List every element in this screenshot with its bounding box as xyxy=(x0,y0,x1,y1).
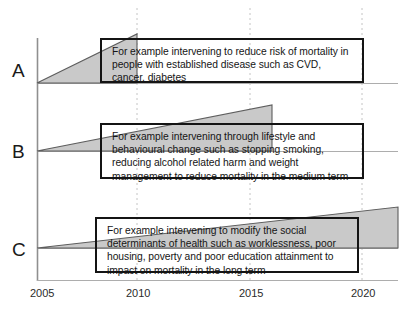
callout-text-c: For example intervening to modify the so… xyxy=(107,224,349,277)
callout-box-b: For example intervening through lifestyl… xyxy=(100,123,364,179)
callout-text-b: For example intervening through lifestyl… xyxy=(112,130,354,183)
x-tick-2010: 2010 xyxy=(126,288,150,299)
callout-text-a: For example intervening to reduce risk o… xyxy=(112,45,354,85)
diagram-canvas: A B C For example intervening to reduce … xyxy=(0,0,417,311)
x-tick-2005: 2005 xyxy=(30,288,54,299)
x-tick-2020: 2020 xyxy=(351,288,375,299)
callout-box-c: For example intervening to modify the so… xyxy=(95,217,359,273)
band-label-b: B xyxy=(12,142,25,161)
x-tick-2015: 2015 xyxy=(239,288,263,299)
band-label-a: A xyxy=(12,61,25,80)
band-label-c: C xyxy=(12,240,26,259)
callout-box-a: For example intervening to reduce risk o… xyxy=(100,38,364,83)
